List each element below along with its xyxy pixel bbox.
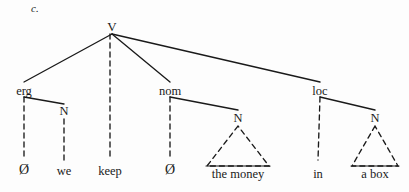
terminal-we: we bbox=[57, 165, 72, 178]
edge-loc-to-in bbox=[318, 97, 320, 160]
terminal-keep: keep bbox=[98, 165, 122, 178]
node-n-a-box: N bbox=[370, 112, 379, 125]
node-loc: loc bbox=[312, 85, 327, 98]
terminal-in: in bbox=[313, 168, 323, 181]
terminal-a-box: a box bbox=[361, 168, 388, 181]
node-n-the-money: N bbox=[233, 112, 242, 125]
node-n-we: N bbox=[59, 105, 68, 118]
figure-letter: c. bbox=[31, 3, 39, 14]
syntax-tree-figure: c. V erg nom loc N N N Ø we keep Ø the m… bbox=[0, 0, 409, 192]
triangle-a-box bbox=[352, 126, 398, 166]
edge-v-to-erg bbox=[24, 34, 112, 82]
terminal-the-money: the money bbox=[212, 168, 264, 181]
edge-loc-to-n bbox=[320, 97, 375, 110]
edge-v-to-loc bbox=[112, 34, 320, 82]
node-v: V bbox=[107, 20, 116, 33]
node-nom: nom bbox=[159, 85, 181, 98]
edge-nom-to-n bbox=[170, 97, 238, 110]
triangle-the-money bbox=[207, 126, 269, 166]
node-erg: erg bbox=[16, 85, 32, 98]
terminal-null-erg: Ø bbox=[19, 163, 29, 177]
terminal-null-nom: Ø bbox=[165, 163, 175, 177]
edge-erg-to-n bbox=[24, 97, 64, 104]
